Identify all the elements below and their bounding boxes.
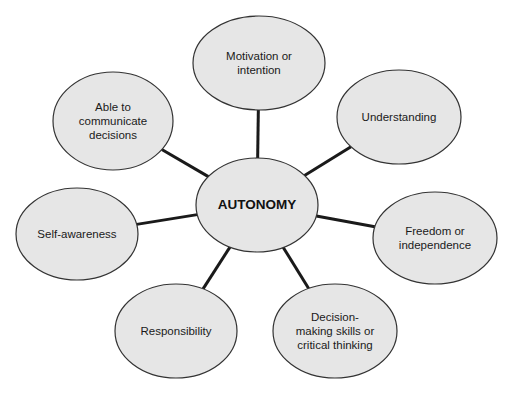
connector-self-awareness xyxy=(137,215,198,225)
connector-motivation xyxy=(258,110,259,158)
connector-responsibility xyxy=(203,247,230,289)
node-freedom-label: Freedom or independence xyxy=(373,192,497,284)
connector-freedom xyxy=(316,216,375,227)
node-motivation-label: Motivation or intention xyxy=(193,16,325,110)
node-self-awareness-label: Self-awareness xyxy=(16,188,138,280)
node-responsibility-label: Responsibility xyxy=(115,284,237,378)
node-decision-label: Decision- making skills or critical thin… xyxy=(273,284,397,378)
node-communicate-label: Able to communicate decisions xyxy=(53,72,173,170)
center-node-label: AUTONOMY xyxy=(196,158,318,252)
connector-decision xyxy=(283,247,308,288)
node-understanding-label: Understanding xyxy=(337,70,461,164)
